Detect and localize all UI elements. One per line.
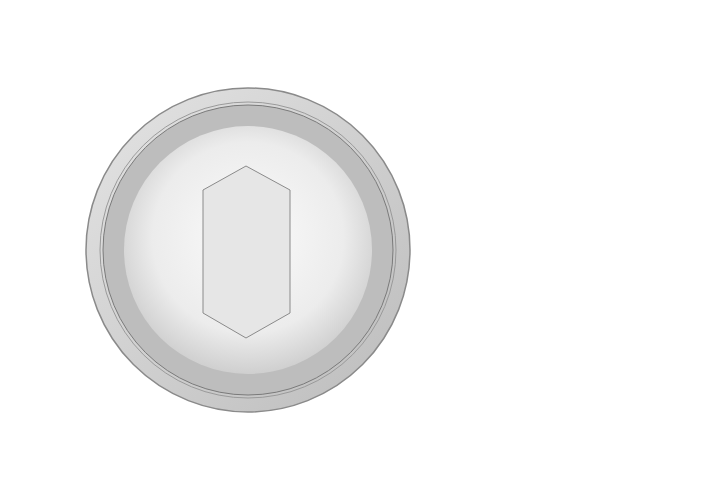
- virus-diagram: [0, 0, 723, 491]
- nucleocapsid: [203, 166, 290, 338]
